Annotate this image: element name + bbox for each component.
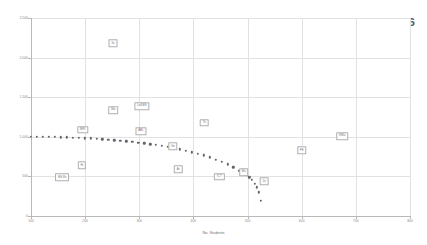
gridline-vertical xyxy=(85,18,86,216)
x-axis-tick-mark xyxy=(356,216,357,219)
gridline-horizontal xyxy=(31,97,410,98)
x-axis-tick-label: 600 xyxy=(299,219,305,223)
data-point-label[interactable]: Ge xyxy=(168,142,177,150)
y-axis-line xyxy=(31,18,32,216)
y-axis-tick-label: 1,000 xyxy=(4,135,28,139)
x-axis-tick-label: 800 xyxy=(407,219,413,223)
y-axis-tick-label: 1,500 xyxy=(4,95,28,99)
gridline-vertical xyxy=(139,18,140,216)
y-axis-tick-mark xyxy=(28,137,31,138)
x-axis-tick-label: 100 xyxy=(28,219,34,223)
data-point-label[interactable]: Hi xyxy=(78,161,86,169)
gridline-horizontal xyxy=(31,18,410,19)
x-axis-tick-label: 700 xyxy=(353,219,359,223)
x-axis-tick-mark xyxy=(85,216,86,219)
data-point-label[interactable]: Te xyxy=(200,119,209,127)
gridline-vertical xyxy=(248,18,249,216)
x-axis-tick-label: 200 xyxy=(82,219,88,223)
data-point-label[interactable]: Ma xyxy=(108,106,118,114)
data-point-label[interactable]: Sc xyxy=(109,40,118,48)
chart-container: Staff Workload 2015-2016 Sum of No. Stud… xyxy=(0,0,427,245)
y-axis-tick-label: 2,500 xyxy=(4,16,28,20)
data-point-label[interactable]: ICT xyxy=(214,173,224,181)
data-point-label[interactable]: ABL xyxy=(135,127,146,135)
y-axis-tick-label: 2,000 xyxy=(4,56,28,60)
data-point-label[interactable]: Mu xyxy=(239,168,249,176)
x-axis-tick-mark xyxy=(193,216,194,219)
y-axis-tick-label: 0 xyxy=(4,214,28,218)
x-axis-tick-mark xyxy=(248,216,249,219)
data-point-label[interactable]: MFL xyxy=(77,126,88,134)
data-point-label[interactable]: Dr xyxy=(260,177,269,185)
x-axis-tick-mark xyxy=(410,216,411,219)
y-axis-tick-mark xyxy=(28,97,31,98)
gridline-vertical xyxy=(410,18,411,216)
x-axis-tick-mark xyxy=(302,216,303,219)
x-axis-line xyxy=(31,216,410,217)
gridline-horizontal xyxy=(31,137,410,138)
y-axis-tick-mark xyxy=(28,58,31,59)
gridline-vertical xyxy=(356,18,357,216)
y-axis-tick-mark xyxy=(28,176,31,177)
y-axis-tick-mark xyxy=(28,18,31,19)
x-axis-tick-mark xyxy=(31,216,32,219)
data-point-label[interactable]: BS-Rs xyxy=(55,173,69,181)
gridline-vertical xyxy=(193,18,194,216)
y-axis-tick-label: 500 xyxy=(4,174,28,178)
data-point-label[interactable]: Ar xyxy=(174,165,182,173)
data-point-label[interactable]: LwDES xyxy=(134,102,149,110)
data-point-label[interactable]: EMa xyxy=(337,132,349,140)
plot-area xyxy=(31,18,410,216)
x-axis-tick-label: 400 xyxy=(191,219,197,223)
x-axis-title: No. Students xyxy=(0,231,427,235)
x-axis-tick-label: 500 xyxy=(245,219,251,223)
gridline-vertical xyxy=(302,18,303,216)
data-point-label[interactable]: PE xyxy=(297,146,306,154)
gridline-horizontal xyxy=(31,58,410,59)
x-axis-tick-mark xyxy=(139,216,140,219)
x-axis-tick-label: 300 xyxy=(136,219,142,223)
